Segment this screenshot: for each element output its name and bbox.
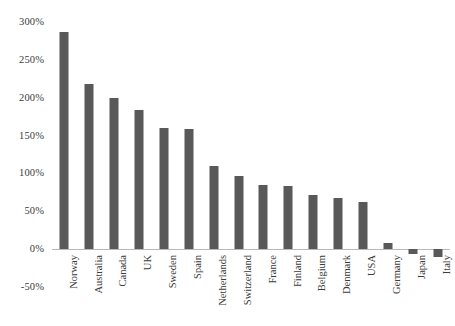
bar[interactable] <box>159 128 168 249</box>
bar[interactable] <box>284 186 293 249</box>
bar[interactable] <box>60 32 69 249</box>
bar-group: France <box>251 0 276 326</box>
bar-group: Belgium <box>301 0 326 326</box>
y-axis-tick-label: 50% <box>0 206 44 217</box>
bar-group: Norway <box>52 0 77 326</box>
bar-group: Italy <box>425 0 450 326</box>
y-axis-tick-label: 300% <box>0 17 44 28</box>
bar-group: Japan <box>400 0 425 326</box>
y-axis: 300%250%200%150%100%50%0%-50% <box>0 0 44 326</box>
bar-group: Finland <box>276 0 301 326</box>
bar-group: Switzerland <box>226 0 251 326</box>
y-axis-tick-label: 250% <box>0 55 44 66</box>
y-axis-tick-label: -50% <box>0 282 44 293</box>
bar-group: Spain <box>176 0 201 326</box>
bar-group: Germany <box>375 0 400 326</box>
bar[interactable] <box>259 185 268 249</box>
x-axis-category-label: Italy <box>442 255 453 274</box>
bar[interactable] <box>234 176 243 249</box>
bar-group: Sweden <box>152 0 177 326</box>
y-axis-tick-label: 100% <box>0 168 44 179</box>
bar-group: Netherlands <box>201 0 226 326</box>
y-axis-tick-label: 0% <box>0 244 44 255</box>
y-axis-tick-label: 200% <box>0 92 44 103</box>
bar[interactable] <box>334 198 343 249</box>
bar-group: UK <box>127 0 152 326</box>
bar[interactable] <box>110 98 119 249</box>
bar[interactable] <box>408 249 417 254</box>
bar[interactable] <box>383 243 392 249</box>
bar[interactable] <box>358 202 367 249</box>
bar-group: Denmark <box>326 0 351 326</box>
bar-group: Canada <box>102 0 127 326</box>
bar-group: USA <box>351 0 376 326</box>
y-axis-tick-label: 150% <box>0 130 44 141</box>
bar[interactable] <box>309 195 318 250</box>
plot-area: NorwayAustraliaCanadaUKSwedenSpainNether… <box>52 0 452 326</box>
bar[interactable] <box>135 110 144 249</box>
bar[interactable] <box>184 129 193 249</box>
bar-chart: 300%250%200%150%100%50%0%-50% NorwayAust… <box>0 0 455 326</box>
bar-group: Australia <box>77 0 102 326</box>
bar[interactable] <box>85 84 94 249</box>
bar[interactable] <box>209 166 218 249</box>
